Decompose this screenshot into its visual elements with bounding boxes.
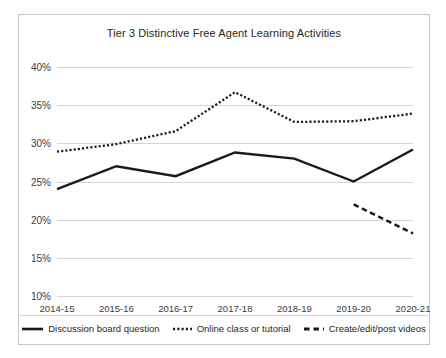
series-line (57, 149, 413, 189)
legend-item[interactable]: Online class or tutorial (173, 323, 291, 334)
y-axis-tick-label: 15% (31, 252, 51, 263)
x-axis-tick-label: 2016-17 (158, 303, 193, 314)
legend-label: Discussion board question (48, 323, 159, 334)
gridline (57, 296, 413, 297)
x-axis-tick-label: 2020-21 (396, 303, 431, 314)
series-group (57, 67, 413, 296)
y-axis-tick-label: 25% (31, 176, 51, 187)
y-axis-tick-label: 40% (31, 62, 51, 73)
legend-label: Create/edit/post videos (329, 323, 426, 334)
plot-area: 40%35%30%25%20%15%10% 2014-152015-162016… (57, 67, 413, 296)
series-line (354, 204, 413, 233)
legend-label: Online class or tutorial (197, 323, 291, 334)
x-axis-tick-label: 2018-19 (277, 303, 312, 314)
x-axis-tick-label: 2017-18 (218, 303, 253, 314)
chart-title: Tier 3 Distinctive Free Agent Learning A… (19, 27, 429, 39)
chart-legend: Discussion board questionOnline class or… (19, 315, 429, 334)
series-line (57, 92, 413, 152)
legend-swatch-dashed-icon (304, 326, 324, 332)
x-axis-tick-label: 2014-15 (40, 303, 75, 314)
y-axis-tick-label: 35% (31, 100, 51, 111)
x-axis-tick-label: 2015-16 (99, 303, 134, 314)
x-axis-tick-label: 2019-20 (336, 303, 371, 314)
legend-item[interactable]: Discussion board question (22, 323, 159, 334)
y-axis-tick-label: 30% (31, 138, 51, 149)
legend-swatch-solid-icon (22, 326, 43, 332)
y-axis-tick-label: 20% (31, 214, 51, 225)
legend-swatch-dotted-icon (173, 326, 192, 332)
y-axis-tick-label: 10% (31, 291, 51, 302)
legend-item[interactable]: Create/edit/post videos (304, 323, 426, 334)
chart-container: Tier 3 Distinctive Free Agent Learning A… (18, 14, 430, 345)
